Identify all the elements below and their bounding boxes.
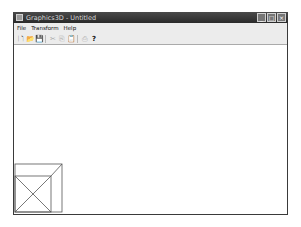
app-icon (16, 14, 23, 21)
close-button[interactable]: × (277, 13, 286, 22)
minimize-button[interactable]: _ (257, 13, 266, 22)
toolbar: 🗋 📂 💾 ✂ ⎘ 📋 ⎙ ? (14, 33, 287, 45)
menu-transform[interactable]: Transform (31, 25, 58, 31)
menu-bar: File Transform Help (14, 23, 287, 33)
window-title: Graphics3D - Untitled (26, 14, 96, 22)
new-icon[interactable]: 🗋 (17, 35, 25, 43)
menu-help[interactable]: Help (64, 25, 77, 31)
paste-icon[interactable]: 📋 (67, 35, 75, 43)
maximize-button[interactable]: □ (267, 13, 276, 22)
toolbar-separator (77, 35, 78, 43)
wireframe-cube (14, 45, 287, 214)
app-window: Graphics3D - Untitled _ □ × File Transfo… (13, 12, 288, 215)
copy-icon[interactable]: ⎘ (58, 35, 66, 43)
title-bar[interactable]: Graphics3D - Untitled _ □ × (13, 12, 288, 23)
toolbar-separator (45, 35, 46, 43)
menu-file[interactable]: File (17, 25, 26, 31)
canvas[interactable] (14, 45, 287, 214)
help-icon[interactable]: ? (90, 35, 98, 43)
cut-icon[interactable]: ✂ (49, 35, 57, 43)
open-icon[interactable]: 📂 (26, 35, 34, 43)
print-icon[interactable]: ⎙ (81, 35, 89, 43)
save-icon[interactable]: 💾 (35, 35, 43, 43)
